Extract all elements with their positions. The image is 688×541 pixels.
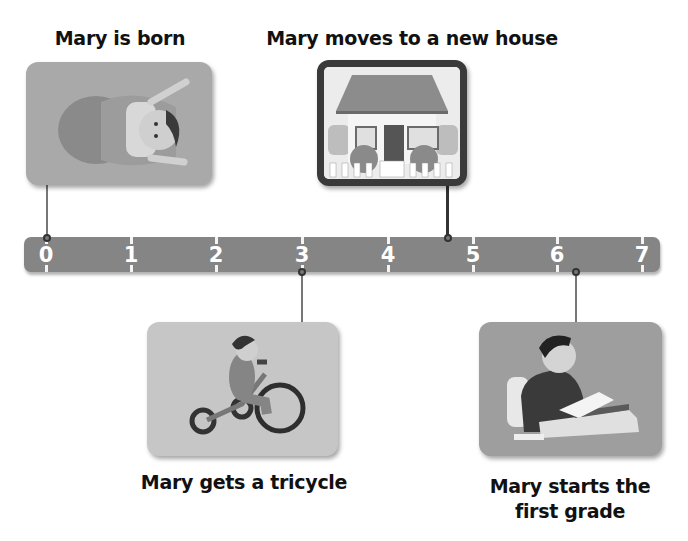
event-label-tricycle: Mary gets a tricycle: [130, 470, 358, 494]
marker-school: [572, 268, 580, 276]
image-card-tricycle: [147, 322, 338, 456]
school-illustration-icon: [479, 322, 662, 456]
event-label-born: Mary is born: [20, 26, 220, 50]
tick-label-6: 6: [547, 243, 567, 267]
timeline-bar: 0 1 2 3 4 5 6 7: [24, 237, 660, 272]
image-card-born: [26, 62, 212, 185]
marker-house: [444, 234, 452, 242]
tick-label-7: 7: [632, 243, 652, 267]
tick-label-5: 5: [463, 243, 483, 267]
tick-label-0: 0: [36, 243, 56, 267]
event-label-school-line1: Mary starts the: [470, 474, 670, 498]
connector-house: [446, 184, 449, 238]
connector-tricycle: [301, 272, 303, 324]
image-card-house: [317, 60, 467, 186]
marker-born: [43, 234, 51, 242]
baby-illustration-icon: [26, 62, 212, 185]
tick-label-4: 4: [378, 243, 398, 267]
tick-label-2: 2: [206, 243, 226, 267]
tricycle-illustration-icon: [147, 322, 338, 456]
tick-label-1: 1: [121, 243, 141, 267]
house-illustration-icon: [324, 67, 460, 179]
marker-tricycle: [298, 268, 306, 276]
tick-label-3: 3: [292, 243, 312, 267]
connector-born: [46, 184, 48, 240]
event-label-house: Mary moves to a new house: [262, 26, 562, 50]
event-label-school-line2: first grade: [470, 499, 670, 523]
image-card-school: [479, 322, 662, 456]
connector-school: [575, 272, 577, 324]
